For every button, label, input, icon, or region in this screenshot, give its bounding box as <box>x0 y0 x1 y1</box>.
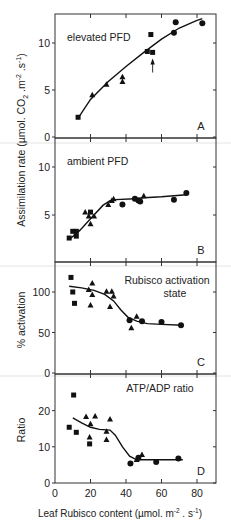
panel-letter: A <box>197 120 205 132</box>
panel-annotation: state <box>164 287 187 299</box>
x-axis-label: Leaf Rubisco content (µmol. m-2 . s-1) <box>38 507 202 519</box>
x-tick-label: 60 <box>156 487 168 499</box>
data-point-circle <box>199 20 205 26</box>
data-point-square <box>67 425 72 430</box>
y-axis-label-assimilation: Assimilation rate (µmol. CO2 .m-2 .s-1) <box>15 53 29 227</box>
data-point-square <box>150 50 155 55</box>
data-point-square <box>70 290 75 295</box>
data-point-circle <box>178 322 184 328</box>
data-point-triangle <box>119 74 125 80</box>
y-axis-label-activation: % activation <box>15 292 27 349</box>
data-point-triangle <box>107 416 113 422</box>
data-point-square <box>74 430 79 435</box>
y-tick-label: 10 <box>38 37 50 49</box>
y-tick-label: 5 <box>44 84 50 96</box>
panel-annotation: elevated PFD <box>67 31 131 43</box>
panel-letter: C <box>197 356 205 368</box>
data-point-triangle <box>111 293 117 299</box>
data-point-square <box>74 234 79 239</box>
data-point-square <box>71 393 76 398</box>
data-point-triangle <box>141 193 147 199</box>
data-point-circle <box>135 455 141 461</box>
data-point-circle <box>159 319 165 325</box>
y-tick-label: 0 <box>44 477 50 489</box>
data-point-triangle <box>119 79 125 85</box>
y-tick-label: 50 <box>38 327 50 339</box>
y-tick-label: 10 <box>38 161 50 173</box>
panels-group: 0510elevated PFDA510ambient PFDB050100Ru… <box>32 14 216 499</box>
data-point-triangle <box>88 421 94 427</box>
multi-panel-chart: 0510elevated PFDA510ambient PFDB050100Ru… <box>0 0 231 524</box>
x-tick-label: 40 <box>120 487 132 499</box>
y-tick-label: 0 <box>44 131 50 143</box>
panel-c: 050100Rubisco activationstateC <box>32 262 216 379</box>
panel-letter: B <box>197 244 204 256</box>
data-point-circle <box>137 199 143 205</box>
data-point-triangle <box>103 288 109 294</box>
data-point-triangle <box>134 313 140 319</box>
x-tick-label: 0 <box>52 487 58 499</box>
panel-b: 510ambient PFDB <box>38 138 216 262</box>
y-tick-label: 10 <box>38 441 50 453</box>
data-point-circle <box>127 317 133 323</box>
data-point-triangle <box>89 92 95 98</box>
data-point-circle <box>153 459 159 465</box>
panel-a: 0510elevated PFDA <box>38 14 216 143</box>
data-point-square <box>76 115 81 120</box>
panel-annotation: Rubisco activation <box>124 274 209 286</box>
data-point-circle <box>139 318 145 324</box>
data-point-circle <box>183 190 189 196</box>
panel-letter: D <box>197 465 205 477</box>
panel-d: 01020ATP/ADP ratioD020406080 <box>38 374 216 499</box>
data-point-triangle <box>89 291 95 297</box>
data-point-square <box>87 441 92 446</box>
data-point-circle <box>173 19 179 25</box>
data-point-circle <box>127 460 133 466</box>
y-axis-label-ratio: Ratio <box>15 418 27 443</box>
data-point-circle <box>171 30 177 36</box>
data-point-triangle <box>82 209 88 215</box>
data-point-square <box>72 301 77 306</box>
data-point-triangle <box>89 280 95 286</box>
data-point-square <box>148 32 153 37</box>
data-point-triangle <box>83 413 89 419</box>
data-point-circle <box>119 201 125 207</box>
y-tick-label: 100 <box>32 286 50 298</box>
x-tick-label: 80 <box>191 487 203 499</box>
panel-annotation: ambient PFD <box>67 155 129 167</box>
y-tick-label: 0 <box>44 367 50 379</box>
y-tick-label: 5 <box>44 209 50 221</box>
data-point-triangle <box>87 434 93 440</box>
data-point-square <box>67 236 72 241</box>
data-point-square <box>74 229 79 234</box>
data-point-square <box>68 275 73 280</box>
data-point-triangle <box>107 304 113 310</box>
data-point-circle <box>175 455 181 461</box>
data-point-square <box>145 49 150 54</box>
x-tick-label: 20 <box>85 487 97 499</box>
data-point-triangle <box>103 437 109 443</box>
data-point-triangle <box>88 302 94 308</box>
data-point-triangle <box>109 288 115 294</box>
arrow-head-icon <box>150 58 154 64</box>
data-point-triangle <box>92 413 98 419</box>
figure: 0510elevated PFDA510ambient PFDB050100Ru… <box>0 0 231 524</box>
data-point-circle <box>171 197 177 203</box>
data-point-triangle <box>128 325 134 331</box>
panel-annotation: ATP/ADP ratio <box>126 382 193 394</box>
y-tick-label: 20 <box>38 405 50 417</box>
